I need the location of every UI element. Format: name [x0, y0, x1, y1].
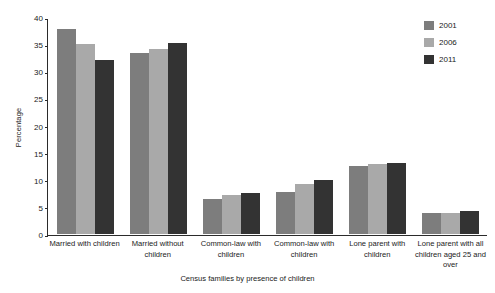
bar-2006 — [149, 49, 168, 234]
chart-legend: 200120062011 — [424, 21, 457, 64]
bar-2001 — [349, 166, 368, 234]
bar-2011 — [168, 43, 187, 235]
y-axis-tick-label: 30 — [34, 67, 43, 78]
y-axis-tick-label: 40 — [34, 13, 43, 24]
x-axis-category-label: Married with children — [48, 239, 121, 271]
x-axis-category-label: Lone parent with children — [341, 239, 414, 271]
y-axis-tick-mark — [45, 73, 48, 74]
bar-2001 — [203, 199, 222, 234]
x-axis-category-label: Married without children — [121, 239, 194, 271]
legend-label: 2011 — [439, 55, 456, 64]
x-axis-category-label: Common-law with children — [194, 239, 267, 271]
y-axis-tick-label: 15 — [34, 149, 43, 160]
y-axis-tick-mark — [45, 154, 48, 155]
y-axis-tick-label: 35 — [34, 40, 43, 51]
bar-group — [49, 19, 122, 234]
bar-2006 — [76, 44, 95, 234]
bar-group — [122, 19, 195, 234]
x-axis-category-labels: Married with childrenMarried without chi… — [48, 239, 487, 271]
legend-item: 2006 — [424, 38, 457, 47]
legend-label: 2001 — [439, 21, 457, 30]
bar-2001 — [130, 53, 149, 234]
bar-2001 — [57, 29, 76, 234]
bar-2011 — [460, 211, 479, 234]
bar-2011 — [241, 193, 260, 234]
y-axis-tick-mark — [45, 19, 48, 20]
bar-2006 — [295, 184, 314, 234]
bar-2001 — [422, 213, 441, 234]
y-axis-tick-label: 5 — [39, 203, 43, 214]
bar-2011 — [387, 163, 406, 234]
legend-item: 2011 — [424, 55, 457, 64]
y-axis-tick-mark — [45, 236, 48, 237]
y-axis-tick-label: 0 — [39, 230, 43, 241]
y-axis-tick-mark — [45, 46, 48, 47]
x-axis-category-label: Lone parent with all children aged 25 an… — [414, 239, 487, 271]
x-axis-category-label: Common-law with children — [268, 239, 341, 271]
bar-2001 — [276, 192, 295, 234]
legend-swatch-icon — [424, 21, 434, 30]
legend-swatch-icon — [424, 38, 434, 47]
y-axis-tick-label: 10 — [34, 176, 43, 187]
y-axis-tick-label: 20 — [34, 122, 43, 133]
y-axis-tick-mark — [45, 127, 48, 128]
bar-2006 — [441, 213, 460, 234]
bar-group — [268, 19, 341, 234]
legend-label: 2006 — [439, 38, 457, 47]
bar-2011 — [95, 60, 114, 234]
y-axis-tick-mark — [45, 181, 48, 182]
bar-2011 — [314, 180, 333, 234]
bar-2006 — [368, 164, 387, 234]
y-axis-tick-mark — [45, 208, 48, 209]
bar-group — [341, 19, 414, 234]
bar-2006 — [222, 195, 241, 234]
bar-chart-figure: Percentage 0510152025303540 Married with… — [0, 0, 495, 293]
plot-area: Percentage 0510152025303540 — [47, 19, 487, 236]
bars-layer — [49, 19, 487, 234]
y-axis-tick-label: 25 — [34, 94, 43, 105]
legend-item: 2001 — [424, 21, 457, 30]
y-axis-title: Percentage — [14, 19, 28, 236]
y-axis-tick-mark — [45, 100, 48, 101]
x-axis-title: Census families by presence of children — [0, 274, 495, 283]
legend-swatch-icon — [424, 55, 434, 64]
bar-group — [195, 19, 268, 234]
